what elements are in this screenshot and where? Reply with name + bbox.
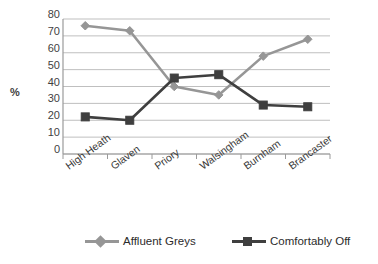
y-tick-label: 30 — [34, 93, 60, 103]
line-chart: % 80706050403020100 High HeathGlavenPrio… — [0, 0, 378, 264]
legend-swatch — [85, 235, 119, 247]
y-axis-title: % — [10, 86, 20, 98]
x-axis-category-labels: High HeathGlavenPrioryWalsinghamBurnhamB… — [0, 156, 378, 224]
y-tick-label: 80 — [34, 9, 60, 19]
data-point-marker — [81, 22, 90, 31]
legend-marker — [94, 235, 107, 248]
y-tick-label: 0 — [34, 144, 60, 154]
y-tick-label: 70 — [34, 26, 60, 36]
data-point-marker — [259, 101, 267, 109]
chart-legend: Affluent GreysComfortably Off — [0, 232, 378, 254]
y-tick-label: 10 — [34, 127, 60, 137]
y-tick-label: 40 — [34, 77, 60, 87]
data-point-marker — [304, 103, 312, 111]
data-point-marker — [126, 116, 134, 124]
legend-entry[interactable]: Affluent Greys — [85, 232, 196, 250]
legend-marker — [243, 237, 252, 246]
y-tick-label: 50 — [34, 60, 60, 70]
data-point-marker — [215, 71, 223, 79]
legend-label: Affluent Greys — [123, 235, 196, 247]
y-tick-label: 20 — [34, 110, 60, 120]
data-point-marker — [81, 113, 89, 121]
legend-swatch — [232, 235, 266, 247]
data-point-marker — [170, 74, 178, 82]
legend-entry[interactable]: Comfortably Off — [232, 232, 350, 250]
legend-label: Comfortably Off — [270, 235, 350, 247]
y-tick-label: 60 — [34, 43, 60, 53]
series-line-comfortably-off — [85, 75, 308, 121]
y-axis-tick-labels: 80706050403020100 — [34, 14, 60, 154]
